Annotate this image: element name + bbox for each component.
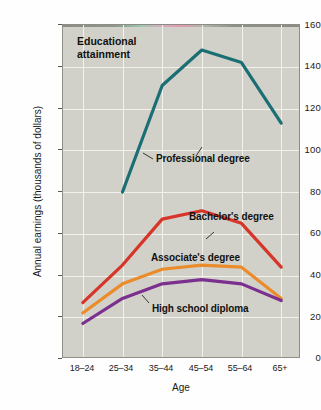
annotation-high-school-diploma: High school diploma xyxy=(152,303,248,314)
chart-container: 160 140 120 100 80 60 40 20 0 xyxy=(0,0,321,410)
y-axis-title: Annual earnings (thousands of dollars) xyxy=(32,67,43,317)
x-axis-title: Age xyxy=(62,382,300,393)
x-tick-65plus: 65+ xyxy=(256,363,304,373)
annotation-bachelors-degree: Bachelor's degree xyxy=(189,211,274,222)
leader-highschool xyxy=(142,295,149,303)
line-high-school-diploma xyxy=(83,280,281,324)
leader-associates xyxy=(206,232,214,239)
line-professional-degree xyxy=(123,50,282,192)
plot-area: Educational attainment Professional degr… xyxy=(62,24,300,358)
annotation-professional-degree: Professional degree xyxy=(156,153,250,164)
leader-professional xyxy=(143,153,153,159)
annotation-associates-degree: Associate's degree xyxy=(151,252,240,263)
